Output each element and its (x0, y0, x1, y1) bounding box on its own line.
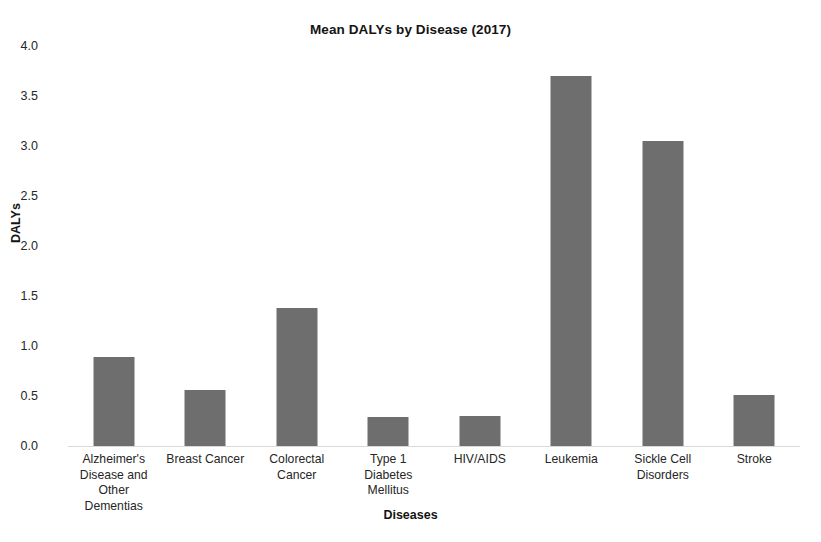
bar-group (251, 46, 343, 446)
x-axis-category-label: HIV/AIDS (434, 452, 526, 468)
bar[interactable] (368, 417, 409, 446)
bar-group (68, 46, 160, 446)
bar[interactable] (551, 76, 592, 446)
bar[interactable] (459, 416, 500, 446)
y-axis-tick-label: 0.5 (6, 389, 38, 403)
bar-group (526, 46, 618, 446)
y-axis-tick-label: 0.0 (6, 439, 38, 453)
x-axis-category-label: Sickle CellDisorders (617, 452, 709, 483)
x-axis-category-label: Alzheimer'sDisease andOtherDementias (68, 452, 160, 514)
bar[interactable] (185, 390, 226, 446)
plot-area: 0.00.51.01.52.02.53.03.54.0 (68, 46, 800, 446)
x-axis-category-label: ColorectalCancer (251, 452, 343, 483)
bar-group (160, 46, 252, 446)
bar[interactable] (734, 395, 775, 446)
chart-title: Mean DALYs by Disease (2017) (0, 22, 821, 37)
y-axis-tick-label: 2.0 (6, 239, 38, 253)
bar[interactable] (276, 308, 317, 446)
x-axis-baseline (68, 446, 800, 447)
y-axis-tick-label: 3.0 (6, 139, 38, 153)
x-axis-category-label: Type 1DiabetesMellitus (343, 452, 435, 499)
bar-group (617, 46, 709, 446)
bar-group (434, 46, 526, 446)
bar-chart-figure: Mean DALYs by Disease (2017) DALYs 0.00.… (0, 0, 821, 542)
y-axis-tick-label: 4.0 (6, 39, 38, 53)
bar-group (709, 46, 801, 446)
x-axis-title: Diseases (0, 508, 821, 522)
y-axis-tick-label: 1.5 (6, 289, 38, 303)
y-axis-tick-label: 1.0 (6, 339, 38, 353)
bar[interactable] (642, 141, 683, 446)
y-axis-tick-label: 3.5 (6, 89, 38, 103)
x-axis-category-label: Stroke (709, 452, 801, 468)
x-axis-category-label: Breast Cancer (160, 452, 252, 468)
x-axis-category-label: Leukemia (526, 452, 618, 468)
y-axis-tick-label: 2.5 (6, 189, 38, 203)
bar[interactable] (93, 357, 134, 446)
bar-group (343, 46, 435, 446)
